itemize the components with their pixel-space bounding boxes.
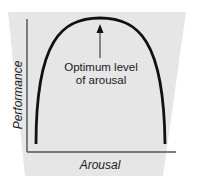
- annotation-line-1: Optimum level: [56, 61, 146, 74]
- annotation-line-2: of arousal: [56, 74, 146, 87]
- optimum-annotation: Optimum level of arousal: [56, 61, 146, 87]
- y-axis-label: Performance: [11, 55, 25, 135]
- chart-canvas: [0, 0, 197, 178]
- x-axis-label: Arousal: [60, 158, 140, 172]
